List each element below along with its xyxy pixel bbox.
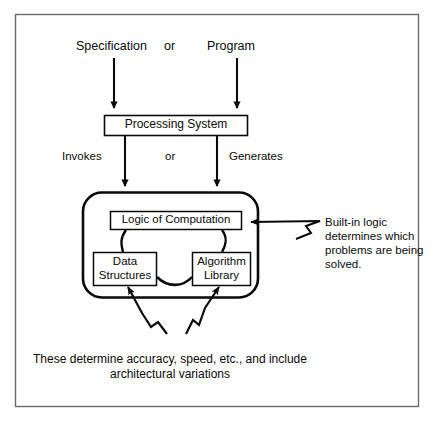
relation-label-generates: Generates	[229, 150, 283, 163]
callout-right-line2: determines which	[325, 229, 414, 243]
input-label-specification: Specification	[76, 39, 147, 53]
caption-bottom-line1: These determine accuracy, speed, etc., a…	[26, 352, 314, 367]
connector-logic-to-data	[121, 230, 126, 252]
data-structures-label-line1: Data	[93, 255, 157, 268]
connector-data-to-algorithm	[157, 277, 192, 285]
logic-of-computation-label: Logic of Computation	[110, 213, 242, 226]
algorithm-library-label-line1: Algorithm	[192, 255, 251, 268]
algorithm-library-label-line2: Library	[192, 269, 251, 282]
callout-right-line1: Built-in logic	[325, 215, 387, 229]
data-structures-label-line2: Structures	[93, 269, 157, 282]
relation-label-invokes: Invokes	[62, 150, 102, 163]
callout-leader-algorithm-library	[186, 287, 219, 334]
callout-right-line4: solved.	[325, 257, 361, 271]
callout-leader-right	[251, 221, 320, 239]
input-label-program: Program	[207, 39, 255, 53]
caption-bottom-line2: architectural variations	[26, 367, 314, 382]
input-conjunction-or: or	[164, 39, 175, 53]
callout-leader-data-structures	[128, 287, 167, 334]
connector-logic-to-algorithm	[222, 230, 226, 252]
figure-root: Specification or Program Processing Syst…	[0, 0, 434, 421]
processing-system-label: Processing System	[104, 118, 248, 131]
relation-conjunction-or: or	[165, 150, 175, 163]
callout-right-line3: problems are being	[325, 243, 423, 257]
figure-frame	[16, 15, 419, 407]
